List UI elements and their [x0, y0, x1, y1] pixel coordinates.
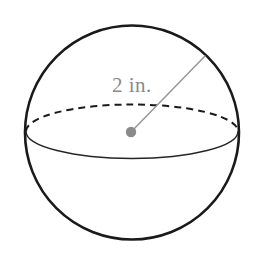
- sphere-diagram-canvas: [0, 0, 256, 257]
- sphere-figure: 2 in.: [0, 0, 256, 257]
- center-dot-icon: [126, 127, 136, 137]
- radius-measure-label: 2 in.: [112, 74, 152, 96]
